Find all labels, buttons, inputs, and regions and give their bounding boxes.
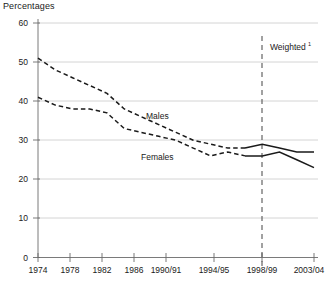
weighted-annotation-superscript: 1 <box>308 41 311 47</box>
xtick-label-1994: 1994/95 <box>199 265 230 275</box>
xtick-label-1974: 1974 <box>29 265 48 275</box>
ytick-label-30: 30 <box>19 135 29 145</box>
xtick-label-2003: 2003/04 <box>294 265 325 275</box>
ytick-label-10: 10 <box>19 213 29 223</box>
ytick-label-50: 50 <box>19 57 29 67</box>
gridlines <box>38 23 318 218</box>
series-males-dashed-segment <box>38 58 245 148</box>
series-males <box>38 58 314 152</box>
ytick-label-60: 60 <box>19 18 29 28</box>
series-females-solid-segment <box>245 152 314 168</box>
series-label-females: Females <box>141 152 174 162</box>
chart-container: Percentages <box>0 0 325 283</box>
ytick-label-40: 40 <box>19 96 29 106</box>
series-label-males: Males <box>146 111 169 121</box>
weighted-annotation-label: Weighted <box>270 42 306 52</box>
xtick-label-1982: 1982 <box>93 265 112 275</box>
ytick-label-0: 0 <box>23 253 28 263</box>
series-females-dashed-segment <box>38 97 245 156</box>
xtick-label-1990: 1990/91 <box>151 265 182 275</box>
ytick-label-20: 20 <box>19 174 29 184</box>
xtick-label-1978: 1978 <box>61 265 80 275</box>
xtick-label-1998: 1998/99 <box>247 265 278 275</box>
series-males-solid-segment <box>245 144 314 152</box>
chart-plot-area: 60 50 40 30 20 10 0 1974 1978 1982 1986 … <box>0 0 325 283</box>
xtick-label-1986: 1986 <box>125 265 144 275</box>
